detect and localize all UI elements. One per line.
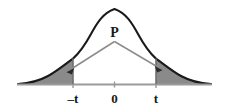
distribution-chart: P –t 0 t <box>0 0 229 109</box>
probability-label: P <box>110 25 119 40</box>
right-tail-shaded-region <box>156 59 211 84</box>
axis-tick-label-zero: 0 <box>111 91 118 106</box>
axis-tick-label-negative-t: –t <box>67 91 80 106</box>
axis-tick-label-positive-t: t <box>154 91 159 106</box>
density-curve <box>18 9 211 84</box>
left-tail-shaded-region <box>18 59 73 84</box>
t-distribution-figure: P –t 0 t <box>0 0 229 109</box>
